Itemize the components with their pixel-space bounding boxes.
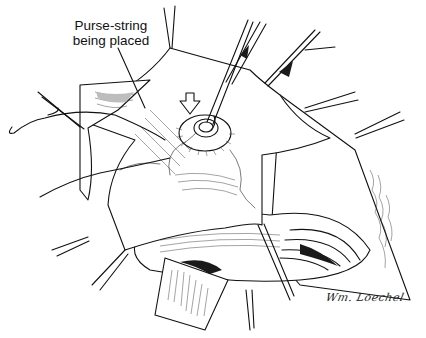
illustration-drawing bbox=[0, 0, 426, 338]
surgical-illustration: Purse-string being placed Wm. Loechel bbox=[0, 0, 426, 338]
clamp-left-lower bbox=[52, 237, 89, 256]
annotation-label: Purse-string being placed bbox=[66, 18, 156, 48]
clamp-right-1 bbox=[305, 92, 358, 112]
clamp-left-upper bbox=[38, 92, 84, 129]
clamp-bottom bbox=[246, 290, 254, 330]
annotation-line-1: Purse-string bbox=[66, 18, 156, 33]
clamp-bottom-left bbox=[92, 250, 128, 290]
clamp-top-right-2 bbox=[265, 30, 335, 86]
artist-signature: Wm. Loechel bbox=[325, 291, 406, 304]
clamp-right-2 bbox=[355, 112, 404, 138]
clamp-top-left bbox=[164, 6, 175, 48]
annotation-line-2: being placed bbox=[66, 33, 156, 48]
